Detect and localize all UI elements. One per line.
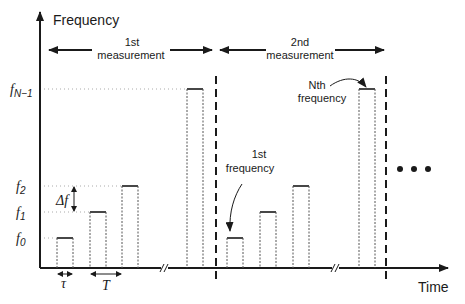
- svg-text:T: T: [102, 278, 111, 293]
- pulse-m2-f1: [260, 212, 276, 268]
- measurement-span-1: 1st measurement: [49, 36, 212, 61]
- level-guides: [44, 89, 187, 238]
- nth-frequency-annotation: Nth frequency: [298, 79, 366, 104]
- svg-text:measurement: measurement: [266, 49, 333, 61]
- svg-text:Δf: Δf: [55, 193, 70, 208]
- pulse-m1-f1: [90, 212, 106, 268]
- svg-text:fN−1: fN−1: [10, 82, 33, 99]
- level-label-f0: f0: [16, 231, 26, 248]
- pulse-m1-f2: [122, 186, 138, 268]
- pulse-m1-fN-1: [187, 89, 203, 268]
- measurement-span-2: 2nd measurement: [220, 36, 384, 61]
- continuation-ellipsis: [397, 166, 431, 172]
- x-axis-label: Time: [418, 279, 449, 295]
- svg-text:f0: f0: [16, 231, 26, 248]
- first-frequency-annotation: 1st frequency: [226, 148, 275, 231]
- svg-text:2nd: 2nd: [291, 36, 309, 48]
- level-label-fN-1: fN−1: [10, 82, 33, 99]
- pulse-m2-fN-1: [359, 89, 375, 268]
- pulse-m2-f0: [227, 238, 243, 268]
- axis-break-mark: [331, 264, 339, 272]
- period-indicator: T: [91, 274, 121, 293]
- svg-text:τ: τ: [61, 276, 67, 291]
- level-label-f2: f2: [16, 179, 26, 196]
- svg-text:1st: 1st: [125, 36, 140, 48]
- svg-text:Nth: Nth: [308, 79, 325, 91]
- pulse-m1-f0: [57, 238, 73, 268]
- svg-text:measurement: measurement: [97, 49, 164, 61]
- svg-text:frequency: frequency: [226, 162, 275, 174]
- frequency-hopping-diagram: Frequency Time fN−1 f2 f1 f0 1st measure…: [0, 0, 465, 304]
- svg-text:f1: f1: [16, 205, 25, 222]
- delta-f-indicator: Δf: [55, 187, 74, 211]
- svg-text:frequency: frequency: [298, 92, 347, 104]
- axis-break-mark: [160, 264, 168, 272]
- pulse-m2-f2: [293, 186, 309, 268]
- svg-text:f2: f2: [16, 179, 26, 196]
- svg-text:1st: 1st: [252, 148, 267, 160]
- level-label-f1: f1: [16, 205, 25, 222]
- y-axis-label: Frequency: [53, 12, 119, 28]
- tau-indicator: τ: [58, 274, 72, 291]
